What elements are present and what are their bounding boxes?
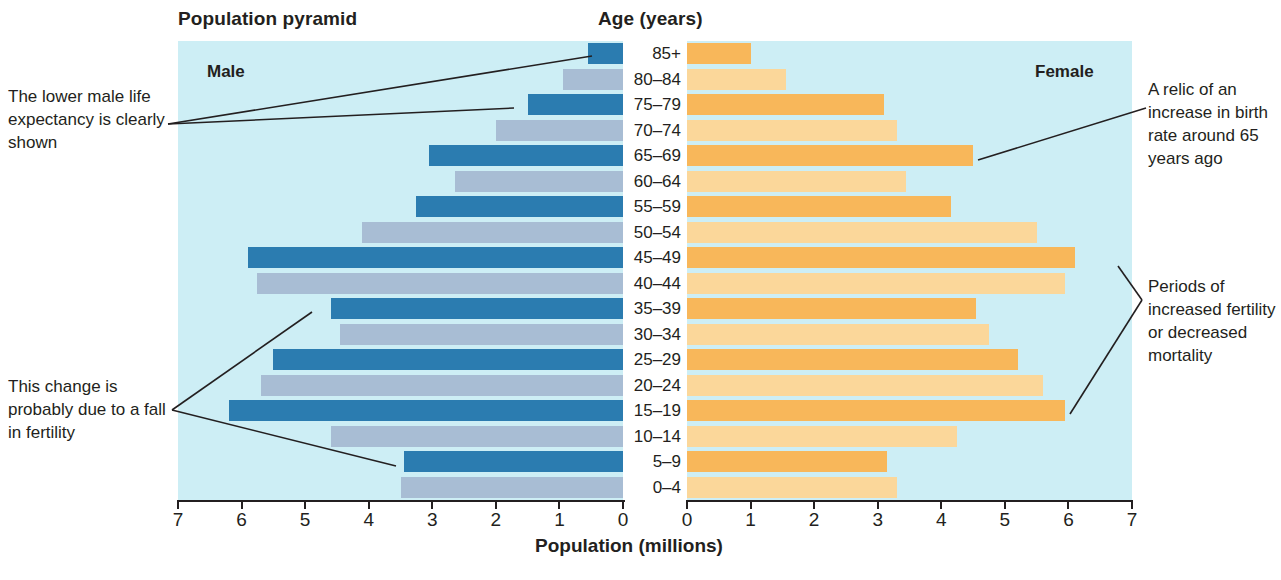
axis-tick-label: 2 — [794, 509, 834, 531]
age-group-label: 15–19 — [623, 398, 681, 424]
axis-tick-label: 0 — [603, 509, 643, 531]
population-axis-title-text: Population (millions) — [535, 535, 723, 557]
axis-tick-label: 4 — [349, 509, 389, 531]
male-bar[interactable] — [563, 69, 623, 90]
axis-tick-label: 7 — [1112, 509, 1152, 531]
female-bar[interactable] — [687, 247, 1075, 268]
axis-tick-label: 2 — [476, 509, 516, 531]
male-bar[interactable] — [588, 43, 623, 64]
female-bar[interactable] — [687, 120, 897, 141]
axis-tick — [813, 500, 815, 509]
age-group-label: 35–39 — [623, 296, 681, 322]
age-group-label: 85+ — [623, 41, 681, 67]
axis-tick — [304, 500, 306, 509]
axis-tick-label: 0 — [667, 509, 707, 531]
female-bar[interactable] — [687, 400, 1065, 421]
female-bar[interactable] — [687, 273, 1065, 294]
male-bar[interactable] — [331, 298, 623, 319]
age-group-label: 40–44 — [623, 271, 681, 297]
male-bar[interactable] — [273, 349, 623, 370]
male-bar[interactable] — [528, 94, 623, 115]
axis-tick — [622, 500, 624, 509]
annotation-fall-in-fertility: This change is probably due to a fall in… — [8, 375, 176, 444]
axis-tick — [558, 500, 560, 509]
page-title: Population pyramid — [178, 8, 357, 30]
annotation-increased-fertility: Periods of increased fertility or decrea… — [1148, 275, 1276, 367]
population-axis-title: Population (millions) — [0, 535, 1281, 557]
axis-tick-label: 7 — [158, 509, 198, 531]
female-bar[interactable] — [687, 375, 1043, 396]
axis-tick — [368, 500, 370, 509]
female-bar[interactable] — [687, 171, 906, 192]
male-bar[interactable] — [331, 426, 623, 447]
female-bar[interactable] — [687, 451, 887, 472]
axis-tick — [431, 500, 433, 509]
axis-tick-label: 1 — [731, 509, 771, 531]
female-bar[interactable] — [687, 196, 951, 217]
axis-tick — [241, 500, 243, 509]
female-bar[interactable] — [687, 145, 973, 166]
axis-tick-label: 1 — [539, 509, 579, 531]
age-group-label: 65–69 — [623, 143, 681, 169]
female-bar[interactable] — [687, 69, 786, 90]
age-group-label: 60–64 — [623, 169, 681, 195]
age-axis-title: Age (years) — [598, 8, 703, 30]
axis-tick-label: 4 — [921, 509, 961, 531]
male-bar[interactable] — [496, 120, 623, 141]
male-bar[interactable] — [429, 145, 623, 166]
axis-tick — [1131, 500, 1133, 509]
female-bar[interactable] — [687, 477, 897, 498]
annotation-birth-rate-relic: A relic of an increase in birth rate aro… — [1148, 78, 1278, 170]
axis-tick-label: 3 — [412, 509, 452, 531]
female-bar[interactable] — [687, 349, 1018, 370]
age-group-label: 70–74 — [623, 118, 681, 144]
male-bar[interactable] — [261, 375, 623, 396]
female-bar[interactable] — [687, 298, 976, 319]
female-bar[interactable] — [687, 222, 1037, 243]
age-group-label: 10–14 — [623, 424, 681, 450]
axis-tick-label: 5 — [985, 509, 1025, 531]
axis-tick — [940, 500, 942, 509]
axis-tick — [177, 500, 179, 509]
age-group-label: 75–79 — [623, 92, 681, 118]
female-axis-line — [686, 500, 1133, 502]
age-group-label: 45–49 — [623, 245, 681, 271]
male-bar[interactable] — [229, 400, 623, 421]
age-group-label: 5–9 — [623, 449, 681, 475]
female-bar[interactable] — [687, 426, 957, 447]
male-bar[interactable] — [416, 196, 623, 217]
axis-tick — [750, 500, 752, 509]
axis-tick — [495, 500, 497, 509]
male-bar[interactable] — [455, 171, 623, 192]
age-group-label: 80–84 — [623, 67, 681, 93]
axis-tick — [686, 500, 688, 509]
age-group-label: 50–54 — [623, 220, 681, 246]
female-bar[interactable] — [687, 94, 884, 115]
male-bar[interactable] — [401, 477, 624, 498]
axis-tick-label: 6 — [1048, 509, 1088, 531]
age-group-label: 0–4 — [623, 475, 681, 501]
male-bar[interactable] — [248, 247, 623, 268]
axis-tick-label: 3 — [858, 509, 898, 531]
axis-tick — [1004, 500, 1006, 509]
female-bar[interactable] — [687, 43, 751, 64]
male-bar[interactable] — [340, 324, 623, 345]
axis-tick-label: 6 — [222, 509, 262, 531]
age-group-label: 55–59 — [623, 194, 681, 220]
age-group-label: 20–24 — [623, 373, 681, 399]
male-bar[interactable] — [257, 273, 623, 294]
axis-tick-label: 5 — [285, 509, 325, 531]
axis-tick — [1067, 500, 1069, 509]
axis-tick — [877, 500, 879, 509]
female-bar[interactable] — [687, 324, 989, 345]
male-bar[interactable] — [404, 451, 623, 472]
age-group-label: 25–29 — [623, 347, 681, 373]
age-group-label: 30–34 — [623, 322, 681, 348]
male-bar[interactable] — [362, 222, 623, 243]
annotation-lower-male-life-expectancy: The lower male life expectancy is clearl… — [8, 85, 176, 154]
